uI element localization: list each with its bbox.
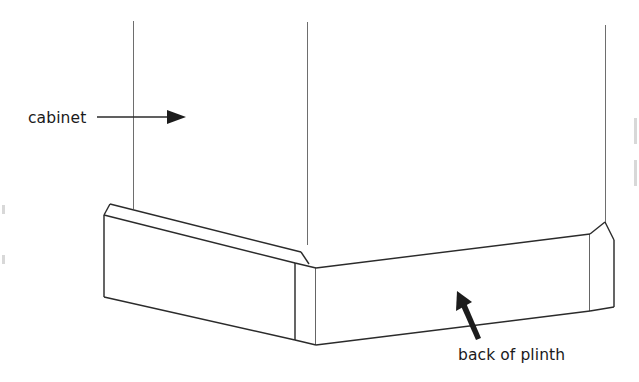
plinth-diagram-figure: cabinet back of plinth <box>0 0 639 382</box>
plinth-right-endcap-fill <box>590 222 614 311</box>
cabinet-annotation: cabinet <box>28 109 186 127</box>
corner-chamfer-mitre <box>301 252 309 264</box>
cabinet-label: cabinet <box>28 109 86 127</box>
plinth-corner-chamfer <box>295 252 316 345</box>
plinth-right-block <box>316 222 614 345</box>
plinth-left-block <box>104 204 301 340</box>
cabinet-vertical-edges <box>134 21 606 245</box>
line-drawing-canvas: cabinet back of plinth <box>0 0 639 382</box>
back-of-plinth-label: back of plinth <box>458 346 565 364</box>
corner-chamfer-fill <box>295 263 316 345</box>
cabinet-arrowhead-icon <box>167 110 186 124</box>
